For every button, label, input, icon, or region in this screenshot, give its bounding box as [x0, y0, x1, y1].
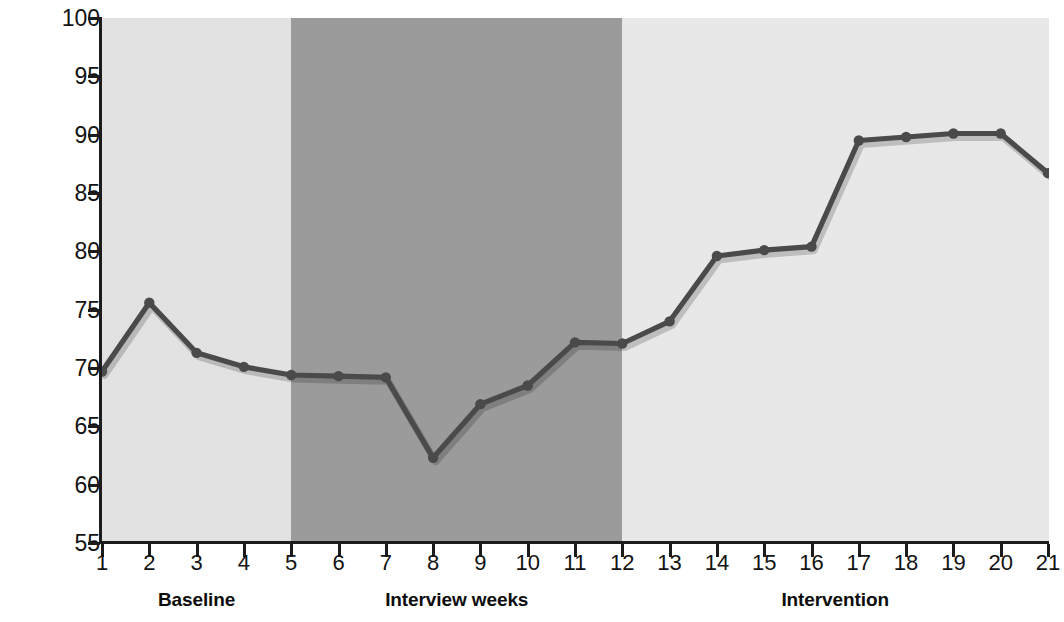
data-point-marker [759, 245, 769, 255]
x-tick-label: 13 [650, 552, 690, 574]
x-tick-label: 19 [933, 552, 973, 574]
x-tick-label: 1 [82, 552, 122, 574]
data-point-marker [333, 371, 343, 381]
y-axis-line [99, 17, 102, 544]
y-axis-title: Percentage of record keeping [0, 0, 32, 34]
y-tick-mark [88, 17, 100, 20]
data-point-marker [239, 362, 249, 372]
x-tick-label: 5 [271, 552, 311, 574]
data-point-marker [617, 338, 627, 348]
data-point-marker [523, 380, 533, 390]
y-tick-mark [88, 75, 100, 78]
series-line-path [102, 134, 1048, 458]
data-point-marker [712, 251, 722, 261]
x-tick-label: 7 [366, 552, 406, 574]
x-tick-label: 20 [981, 552, 1021, 574]
x-tick-label: 2 [129, 552, 169, 574]
y-tick-mark [88, 484, 100, 487]
data-point-marker [381, 372, 391, 382]
y-tick-mark [88, 192, 100, 195]
phase-label-intervention: Intervention [781, 589, 889, 611]
phase-label-interview-weeks: Interview weeks [385, 589, 528, 611]
series-line [101, 18, 1049, 543]
plot-area [101, 18, 1049, 543]
data-point-marker [996, 128, 1006, 138]
x-tick-label: 9 [460, 552, 500, 574]
x-tick-label: 11 [555, 552, 595, 574]
data-point-marker [901, 132, 911, 142]
x-tick-label: 17 [839, 552, 879, 574]
x-tick-label: 3 [177, 552, 217, 574]
x-tick-label: 4 [224, 552, 264, 574]
x-tick-label: 12 [602, 552, 642, 574]
y-tick-mark [88, 250, 100, 253]
data-point-marker [570, 337, 580, 347]
data-point-marker [664, 316, 674, 326]
data-point-marker [806, 241, 816, 251]
data-point-marker [428, 453, 438, 463]
series-line-shadow [105, 138, 1050, 462]
data-point-marker [144, 297, 154, 307]
data-point-marker [191, 348, 201, 358]
y-tick-mark [88, 309, 100, 312]
x-tick-label: 15 [744, 552, 784, 574]
y-tick-mark [88, 134, 100, 137]
data-point-marker [475, 399, 485, 409]
y-tick-mark [88, 367, 100, 370]
phase-label-baseline: Baseline [158, 589, 235, 611]
x-tick-label: 8 [413, 552, 453, 574]
x-tick-label: 18 [886, 552, 926, 574]
y-tick-mark [88, 542, 100, 545]
data-point-marker [854, 135, 864, 145]
data-point-marker [948, 128, 958, 138]
data-point-marker [286, 370, 296, 380]
x-tick-label: 10 [508, 552, 548, 574]
x-tick-label: 21 [1028, 552, 1064, 574]
x-tick-label: 6 [319, 552, 359, 574]
x-tick-label: 14 [697, 552, 737, 574]
y-tick-mark [88, 425, 100, 428]
x-tick-label: 16 [792, 552, 832, 574]
